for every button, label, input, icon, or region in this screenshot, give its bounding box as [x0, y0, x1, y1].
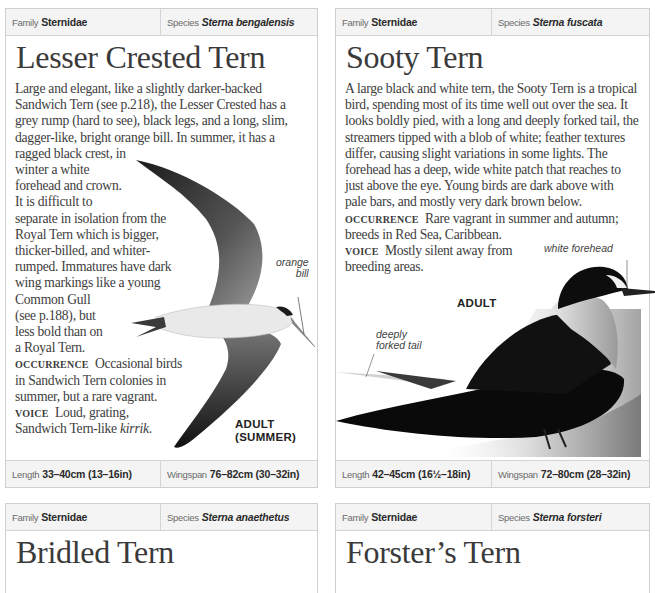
length-label: Length: [12, 469, 39, 480]
description-line: less bold than on: [15, 324, 315, 340]
description-line: winter a white: [15, 162, 315, 178]
description-line: It is difficult to: [15, 194, 315, 210]
description-line: looks boldly pied, with a long and deepl…: [345, 113, 650, 129]
description-line: pale bars, and mostly very dark brown be…: [345, 194, 650, 210]
family-cell: Family Sternidae: [6, 504, 161, 530]
length-label: Length: [342, 469, 369, 480]
voice-text: Mostly silent away from: [385, 243, 513, 258]
illustration-caption: ADULT: [457, 297, 497, 310]
family-label: Family: [342, 512, 368, 523]
description-line: just above the eye. Young birds are dark…: [345, 178, 650, 194]
description-line: dagger-like, bright orange bill. In summ…: [15, 130, 315, 146]
description-line: bird, spending most of its time well out…: [345, 97, 650, 113]
callout-text: forked tail: [376, 340, 422, 351]
occurrence-text: in Sandwich Tern colonies in: [15, 373, 315, 389]
description-line: Large and elegant, like a slightly darke…: [15, 81, 315, 97]
voice-label: VOICE: [345, 243, 379, 258]
species-label: Species: [167, 512, 199, 523]
species-label: Species: [498, 512, 530, 523]
description-line: Royal Tern which is bigger,: [15, 227, 315, 243]
description-line: grey rump (hard to see), black legs, and…: [15, 113, 315, 129]
length-cell: Length 42–45cm (16½–18in): [336, 461, 492, 487]
wingspan-label: Wingspan: [498, 469, 538, 480]
species-value: Sterna anaethetus: [202, 511, 290, 523]
occurrence-label: OCCURRENCE: [345, 211, 419, 226]
wingspan-cell: Wingspan 76–82cm (30–32in): [161, 461, 299, 487]
caption-text: ADULT: [235, 418, 296, 431]
wingspan-cell: Wingspan 72–80cm (28–32in): [492, 461, 630, 487]
description-line: Common Gull: [15, 292, 315, 308]
occurrence-text: breeds in Red Sea, Caribbean.: [345, 227, 650, 243]
voice-label: VOICE: [15, 405, 49, 420]
description-line: A large black and white tern, the Sooty …: [345, 81, 650, 97]
species-card-lesser-crested-tern: Family Sternidae Species Sterna bengalen…: [5, 8, 318, 488]
wingspan-label: Wingspan: [167, 469, 207, 480]
species-cell: Species Sterna forsteri: [492, 504, 601, 530]
length-value: 33–40cm (13–16in): [42, 468, 131, 480]
occurrence-text: Occasional birds: [95, 356, 182, 371]
description-line: a Royal Tern.: [15, 340, 315, 356]
description-line: forehead and crown.: [15, 178, 315, 194]
voice-text: Loud, grating,: [55, 405, 129, 420]
family-label: Family: [12, 512, 38, 523]
occurrence-label: OCCURRENCE: [15, 356, 89, 371]
family-cell: Family Sternidae: [336, 504, 492, 530]
length-cell: Length 33–40cm (13–16in): [6, 461, 161, 487]
occurrence-text: summer, but a rare vagrant.: [15, 389, 315, 405]
callout-forked-tail: deeply forked tail: [376, 329, 422, 351]
description-line: separate in isolation from the: [15, 211, 315, 227]
occurrence-text: Rare vagrant in summer and autumn;: [425, 211, 618, 226]
callout-white-forehead: white forehead: [544, 243, 613, 254]
occurrence-section: OCCURRENCE Occasional birds: [15, 356, 315, 372]
description-line: wing markings like a young: [15, 275, 315, 291]
species-card-forsters-tern: Family Sternidae Species Sterna forsteri…: [335, 503, 650, 593]
description-line: thicker-billed, and whiter-: [15, 243, 315, 259]
species-title: Forster’s Tern: [346, 534, 521, 571]
card-header: Family Sternidae Species Sterna anaethet…: [6, 504, 317, 531]
length-value: 42–45cm (16½–18in): [372, 468, 470, 480]
family-value: Sternidae: [41, 511, 87, 523]
callout-text: bill: [276, 268, 309, 279]
description-line: ragged black crest, in: [15, 146, 315, 162]
description-line: streamers tipped with a blob of white; f…: [345, 130, 650, 146]
wingspan-value: 72–80cm (28–32in): [541, 468, 630, 480]
description-line: Sandwich Tern (see p.218), the Lesser Cr…: [15, 97, 315, 113]
caption-text: (SUMMER): [235, 431, 296, 444]
species-card-bridled-tern: Family Sternidae Species Sterna anaethet…: [5, 503, 318, 593]
voice-text: breeding areas.: [345, 259, 650, 275]
callout-orange-bill: orange bill: [276, 257, 309, 279]
voice-text: .: [149, 421, 152, 436]
species-description: Large and elegant, like a slightly darke…: [15, 81, 315, 437]
card-footer: Length 42–45cm (16½–18in) Wingspan 72–80…: [336, 460, 649, 487]
species-title: Bridled Tern: [16, 534, 174, 571]
species-card-sooty-tern: Family Sternidae Species Sterna fuscata …: [335, 8, 650, 488]
card-footer: Length 33–40cm (13–16in) Wingspan 76–82c…: [6, 460, 317, 487]
description-line: forehead has a deep, wide white patch th…: [345, 162, 650, 178]
card-header: Family Sternidae Species Sterna forsteri: [336, 504, 649, 531]
description-line: differ, causing slight variations in som…: [345, 146, 650, 162]
illustration-caption: ADULT (SUMMER): [235, 418, 296, 444]
species-value: Sterna forsteri: [533, 511, 602, 523]
occurrence-section: OCCURRENCE Rare vagrant in summer and au…: [345, 211, 650, 227]
species-cell: Species Sterna anaethetus: [161, 504, 289, 530]
description-line: rumped. Immatures have dark: [15, 259, 315, 275]
description-line: (see p.188), but: [15, 308, 315, 324]
wingspan-value: 76–82cm (30–32in): [210, 468, 299, 480]
voice-call: kirrik: [120, 421, 149, 436]
voice-text: Sandwich Tern-like: [15, 421, 120, 436]
family-value: Sternidae: [371, 511, 417, 523]
